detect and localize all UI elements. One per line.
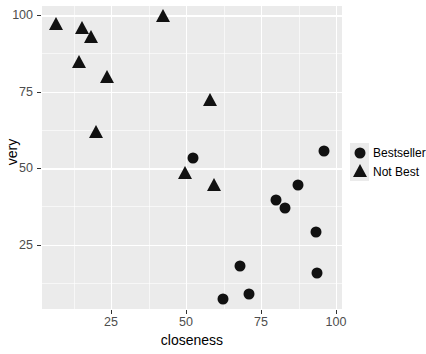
data-point-circle (187, 152, 198, 163)
gridline-horizontal-minor (42, 206, 342, 207)
data-point-circle (235, 261, 246, 272)
data-point-triangle (100, 70, 114, 83)
x-tick-mark (261, 310, 262, 314)
legend-item-not-best[interactable]: Not Best (350, 162, 424, 181)
legend-label: Bestseller (373, 146, 426, 160)
gridline-vertical-major (261, 6, 262, 309)
data-point-circle (280, 203, 291, 214)
y-tick-mark (37, 15, 41, 16)
gridline-vertical-minor (149, 6, 150, 309)
data-point-circle (218, 293, 229, 304)
data-point-triangle (49, 17, 63, 30)
x-tick-mark (336, 310, 337, 314)
gridline-vertical-major (111, 6, 112, 309)
data-point-triangle (156, 9, 170, 22)
x-tick-mark (111, 310, 112, 314)
gridline-vertical-minor (224, 6, 225, 309)
legend-key-triangle-icon (350, 162, 369, 181)
gridline-vertical-minor (299, 6, 300, 309)
data-point-circle (244, 289, 255, 300)
x-tick-label: 75 (254, 315, 268, 329)
y-tick-mark (37, 168, 41, 169)
data-point-triangle (84, 30, 98, 43)
data-point-triangle (178, 166, 192, 179)
y-tick-mark (37, 245, 41, 246)
x-tick-label: 25 (104, 315, 118, 329)
legend-item-bestseller[interactable]: Bestseller (350, 143, 424, 162)
legend-key-circle-icon (350, 143, 369, 162)
data-point-circle (318, 146, 329, 157)
y-axis-title: very (4, 122, 20, 182)
y-tick-label: 25 (0, 238, 33, 252)
x-axis-title: closeness (42, 332, 342, 348)
gridline-vertical-major (336, 6, 337, 309)
gridline-horizontal-minor (42, 53, 342, 54)
data-point-triangle (203, 93, 217, 106)
legend: BestsellerNot Best (350, 143, 424, 181)
gridline-vertical-minor (74, 6, 75, 309)
y-tick-label: 100 (0, 8, 33, 22)
data-point-triangle (72, 55, 86, 68)
y-tick-mark (37, 92, 41, 93)
gridline-horizontal-major (42, 245, 342, 246)
data-point-circle (292, 179, 303, 190)
y-tick-label: 75 (0, 85, 33, 99)
gridline-horizontal-minor (42, 283, 342, 284)
data-point-circle (312, 267, 323, 278)
gridline-horizontal-major (42, 15, 342, 16)
plot-panel (42, 6, 342, 309)
x-tick-label: 100 (326, 315, 347, 329)
gridline-horizontal-minor (42, 130, 342, 131)
data-point-triangle (207, 178, 221, 191)
legend-label: Not Best (373, 165, 419, 179)
gridline-horizontal-major (42, 92, 342, 93)
x-tick-label: 50 (179, 315, 193, 329)
data-point-triangle (89, 125, 103, 138)
data-point-circle (310, 227, 321, 238)
x-tick-mark (186, 310, 187, 314)
